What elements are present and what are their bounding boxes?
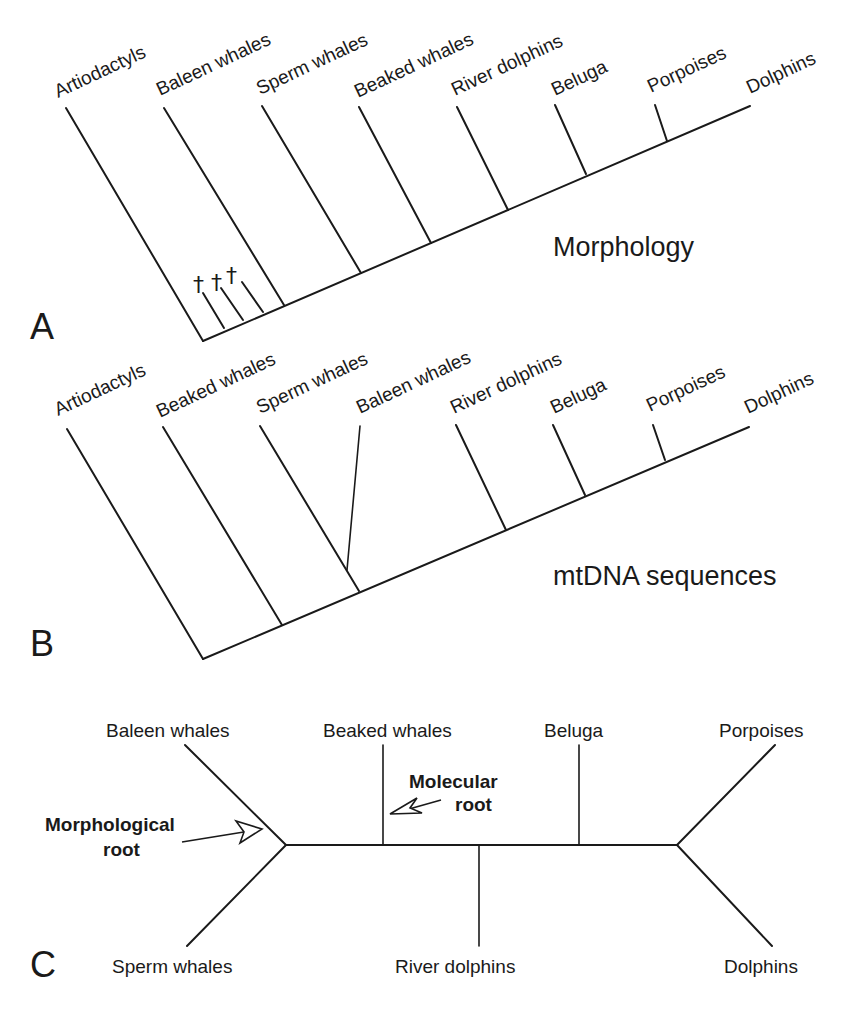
panel-a-fossil-branch-1 — [203, 293, 224, 328]
morphological-root-label-line1: Morphological — [45, 814, 175, 835]
panel-c-unrooted-tree: Baleen whales Beaked whales Beluga Porpo… — [30, 720, 804, 985]
panel-c-label-beluga: Beluga — [544, 720, 604, 741]
morphological-root-label-line2: root — [103, 839, 141, 860]
molecular-root-label-line1: Molecular — [409, 771, 498, 792]
panel-c-label-porpoises: Porpoises — [719, 720, 804, 741]
panel-c-label-dolphins: Dolphins — [724, 956, 798, 977]
morphological-root-arrow-icon — [182, 821, 262, 843]
panel-b-branch-river-dolphins — [456, 425, 506, 530]
panel-a-morphology-tree: † † † Artiodactyls Baleen whales Sperm w… — [30, 28, 819, 347]
panel-b-branch-baleen — [347, 426, 360, 570]
panel-b-label-dolphins: Dolphins — [741, 367, 817, 417]
panel-a-branch-river-dolphins — [457, 107, 508, 210]
dagger-icon: † — [211, 270, 222, 295]
panel-c-branch-porpoises — [677, 745, 775, 845]
panel-b-label-beluga: Beluga — [547, 373, 610, 417]
panel-a-branch-beaked — [359, 107, 431, 243]
dagger-icon: † — [193, 272, 204, 297]
panel-a-fossil-branch-3 — [242, 282, 263, 312]
panel-a-branch-porpoises — [655, 105, 667, 141]
panel-b-branch-porpoises — [653, 425, 665, 460]
molecular-root-arrow-icon — [390, 798, 441, 814]
panel-c-letter: C — [30, 944, 56, 985]
panel-b-letter: B — [30, 623, 54, 664]
panel-b-branch-artiodactyls — [67, 429, 203, 659]
panel-c-branch-dolphins — [677, 845, 772, 946]
panel-c-label-baleen: Baleen whales — [106, 720, 230, 741]
panel-b-branch-sperm — [260, 426, 359, 591]
panel-b-label-porpoises: Porpoises — [643, 361, 728, 416]
panel-b-branch-beaked — [163, 427, 282, 625]
panel-a-branch-sperm — [262, 106, 361, 273]
panel-a-label-dolphins: Dolphins — [743, 47, 819, 97]
panel-c-label-sperm: Sperm whales — [112, 956, 232, 977]
panel-a-branch-baleen — [164, 108, 284, 305]
molecular-root-label-line2: root — [455, 794, 493, 815]
dagger-icon: † — [226, 263, 237, 288]
panel-c-label-river-dolphins: River dolphins — [395, 956, 515, 977]
panel-c-branch-sperm — [187, 845, 286, 946]
panel-a-branch-beluga — [555, 105, 586, 174]
panel-a-title: Morphology — [553, 232, 695, 262]
panel-a-letter: A — [30, 306, 54, 347]
panel-b-branch-beluga — [553, 425, 585, 495]
panel-b-backbone — [203, 427, 749, 659]
panel-c-label-beaked: Beaked whales — [323, 720, 452, 741]
panel-a-label-baleen: Baleen whales — [153, 28, 274, 99]
panel-a-label-beluga: Beluga — [548, 55, 611, 99]
phylogeny-figure: † † † Artiodactyls Baleen whales Sperm w… — [0, 0, 854, 1010]
panel-b-label-artiodactyls: Artiodactyls — [51, 359, 149, 420]
panel-a-fossil-branch-2 — [221, 288, 243, 320]
panel-b-title: mtDNA sequences — [553, 561, 777, 591]
panel-a-label-porpoises: Porpoises — [644, 42, 729, 97]
panel-a-label-artiodactyls: Artiodactyls — [51, 41, 149, 102]
panel-b-mtdna-tree: Artiodactyls Beaked whales Sperm whales … — [30, 346, 817, 664]
panel-c-branch-baleen — [185, 745, 286, 845]
panel-a-branch-artiodactyls — [66, 108, 203, 341]
